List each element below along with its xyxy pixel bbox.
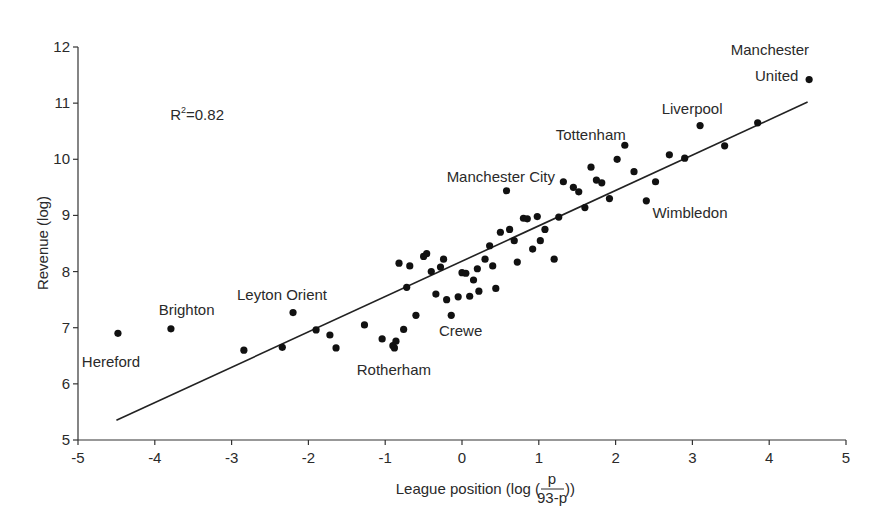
data-point: [696, 122, 703, 129]
data-point: [587, 164, 594, 171]
data-point: [392, 338, 399, 345]
x-tick-label: -2: [302, 449, 315, 466]
data-point: [681, 155, 688, 162]
data-point: [537, 237, 544, 244]
y-tick-label: 7: [62, 319, 70, 336]
data-point: [551, 256, 558, 263]
x-axis-title-numerator: p: [548, 470, 556, 487]
club-label: Brighton: [159, 301, 215, 318]
x-axis-title-prefix: League position (log (: [396, 480, 540, 497]
data-point: [492, 285, 499, 292]
data-point: [575, 188, 582, 195]
data-point: [406, 262, 413, 269]
data-point: [474, 265, 481, 272]
data-point: [555, 214, 562, 221]
x-tick-label: 1: [535, 449, 543, 466]
data-point: [114, 330, 121, 337]
data-point: [470, 276, 477, 283]
club-label: Manchester: [731, 41, 809, 58]
data-point: [514, 258, 521, 265]
data-point: [455, 293, 462, 300]
data-point: [448, 312, 455, 319]
data-point: [400, 326, 407, 333]
club-label: Rotherham: [357, 361, 431, 378]
x-tick-label: 3: [688, 449, 696, 466]
data-point: [361, 321, 368, 328]
data-point: [486, 242, 493, 249]
data-point: [428, 268, 435, 275]
data-point: [462, 270, 469, 277]
data-point: [437, 263, 444, 270]
data-point: [630, 168, 637, 175]
x-axis: -5-4-3-2-1012345: [71, 440, 850, 466]
data-point: [581, 204, 588, 211]
data-point: [541, 226, 548, 233]
data-point: [379, 335, 386, 342]
x-tick-label: 2: [611, 449, 619, 466]
data-point: [721, 142, 728, 149]
x-tick-label: -4: [148, 449, 161, 466]
data-point: [652, 178, 659, 185]
x-tick-label: -3: [225, 449, 238, 466]
club-label: Manchester City: [447, 168, 556, 185]
y-axis-title: Revenue (log): [34, 196, 51, 290]
x-tick-label: -5: [71, 449, 84, 466]
club-label: Leyton Orient: [237, 286, 328, 303]
y-tick-label: 12: [53, 38, 70, 55]
x-tick-label: 5: [842, 449, 850, 466]
data-point: [598, 179, 605, 186]
y-tick-label: 11: [54, 94, 70, 111]
data-point: [621, 142, 628, 149]
data-point: [529, 246, 536, 253]
y-tick-label: 6: [62, 375, 70, 392]
data-point: [511, 237, 518, 244]
data-point: [240, 347, 247, 354]
data-point: [560, 178, 567, 185]
data-point: [489, 262, 496, 269]
x-axis-title: League position (log ( p 93-p )): [396, 470, 575, 506]
data-point: [312, 326, 319, 333]
data-point: [606, 195, 613, 202]
data-point: [403, 284, 410, 291]
data-point: [524, 215, 531, 222]
club-label: Hereford: [82, 353, 140, 370]
data-point: [289, 309, 296, 316]
data-point: [440, 256, 447, 263]
y-tick-label: 5: [62, 431, 70, 448]
data-point: [806, 76, 813, 83]
x-tick-label: -1: [379, 449, 392, 466]
data-point: [475, 288, 482, 295]
data-point: [412, 312, 419, 319]
data-point: [326, 331, 333, 338]
data-point: [481, 256, 488, 263]
club-label: Wimbledon: [652, 204, 727, 221]
regression-line: [116, 102, 807, 420]
data-point: [466, 293, 473, 300]
y-tick-label: 10: [53, 150, 70, 167]
data-point: [506, 226, 513, 233]
data-point: [503, 187, 510, 194]
data-point: [614, 156, 621, 163]
x-tick-label: 0: [458, 449, 466, 466]
y-tick-label: 8: [62, 263, 70, 280]
scatter-chart: 56789101112 -5-4-3-2-1012345 HerefordBri…: [0, 0, 886, 528]
y-axis: 56789101112: [53, 38, 78, 448]
data-point: [391, 344, 398, 351]
data-point: [423, 250, 430, 257]
data-point: [279, 344, 286, 351]
data-point: [395, 260, 402, 267]
x-axis-title-suffix: )): [565, 480, 575, 497]
data-point: [534, 213, 541, 220]
data-point: [167, 325, 174, 332]
x-tick-label: 4: [765, 449, 773, 466]
data-point: [754, 119, 761, 126]
club-label: Liverpool: [662, 100, 723, 117]
r-squared-annotation: R2=0.82: [170, 105, 224, 123]
data-point: [497, 229, 504, 236]
data-point: [432, 290, 439, 297]
data-point: [666, 151, 673, 158]
club-label: Tottenham: [556, 126, 626, 143]
club-label: Crewe: [439, 322, 482, 339]
club-label: United: [755, 67, 798, 84]
club-labels: HerefordBrightonLeyton OrientRotherhamCr…: [82, 41, 809, 378]
